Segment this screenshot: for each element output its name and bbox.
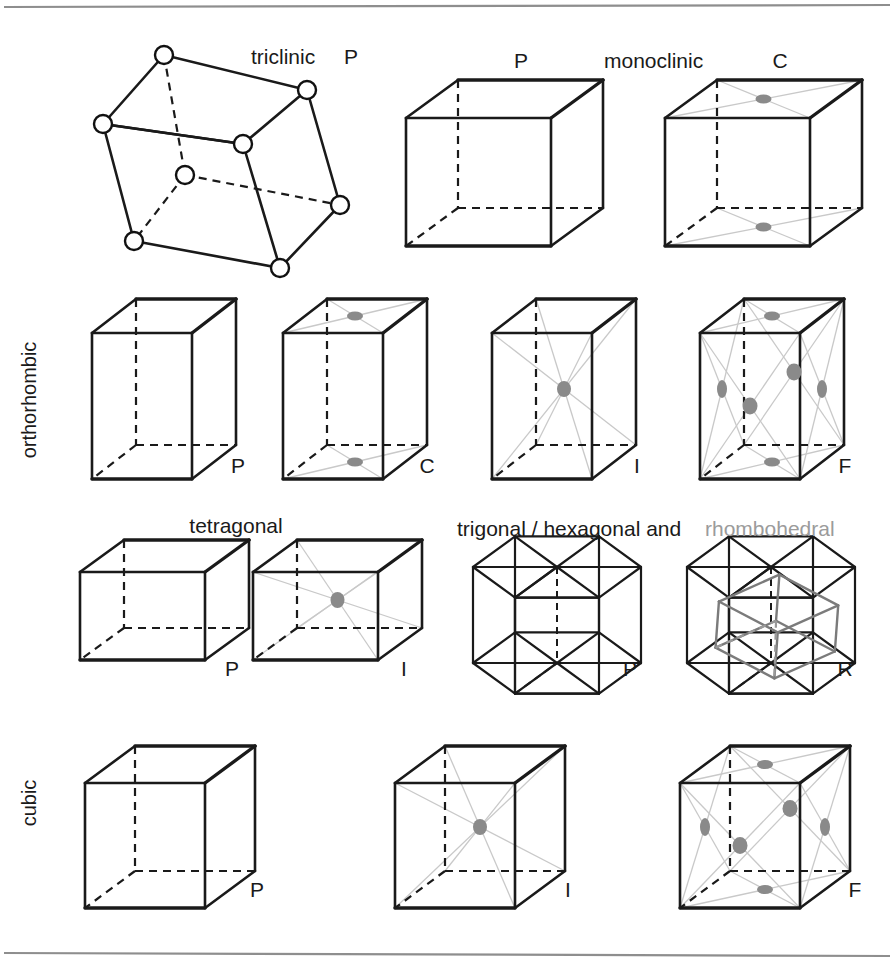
symbol-tetragonal-I: I (401, 657, 407, 680)
lattice-point-bottom-face-centre (757, 885, 773, 894)
label-triclinic: triclinic (251, 45, 315, 68)
symbol-orthorhombic-I: I (634, 454, 640, 477)
label-cubic: cubic (18, 780, 40, 827)
symbol-monoclinic-P: P (514, 49, 528, 72)
symbol-orthorhombic-C: C (419, 454, 434, 477)
lattice-point-bottom-face-centre (756, 223, 772, 232)
bravais-lattices-figure: triclinic P P monoclinic C orthorhombic … (0, 0, 894, 961)
lattice-node-bbr (331, 196, 349, 214)
symbol-triclinic-P: P (344, 45, 358, 68)
lattice-point-left-face-centre (700, 818, 710, 836)
lattice-point-body-centre (331, 592, 345, 608)
symbol-cubic-P: P (250, 878, 264, 901)
lattice-node-fbl (125, 232, 143, 250)
lattice-point-top-face-centre (764, 312, 780, 321)
lattice-point-body-centre (557, 381, 571, 397)
symbol-rhombohedral-R: R (837, 657, 852, 680)
lattice-node-btr (298, 81, 316, 99)
lattice-node-ftl (94, 115, 112, 133)
lattice-point-top-face-centre (756, 95, 772, 104)
lattice-point-front-face-centre (743, 398, 758, 415)
symbol-orthorhombic-F: F (839, 454, 852, 477)
lattice-point-back-face-centre (783, 800, 798, 817)
lattice-point-bottom-face-centre (764, 458, 780, 467)
lattice-point-back-face-centre (787, 364, 802, 381)
symbol-cubic-I: I (565, 878, 571, 901)
lattice-point-top-face-centre (757, 760, 773, 769)
label-rhombohedral: rhombohedral (705, 517, 835, 540)
lattice-node-ftr (234, 135, 252, 153)
lattice-node-fbr (271, 259, 289, 277)
symbol-hexagonal-P: P (623, 657, 637, 680)
label-trigonal-hexagonal: trigonal / hexagonal and (457, 517, 681, 540)
lattice-node-bbl (176, 166, 194, 184)
lattice-node-btl (155, 46, 173, 64)
symbol-tetragonal-P: P (225, 657, 239, 680)
lattice-point-top-face-centre (347, 312, 363, 321)
label-monoclinic: monoclinic (604, 49, 703, 72)
label-tetragonal: tetragonal (189, 514, 282, 537)
label-orthorhombic: orthorhombic (18, 342, 40, 459)
symbol-cubic-F: F (849, 878, 862, 901)
lattice-point-bottom-face-centre (347, 458, 363, 467)
lattice-point-body-centre (473, 819, 487, 835)
symbol-monoclinic-C: C (772, 49, 787, 72)
lattice-point-front-face-centre (733, 837, 748, 854)
lattice-point-left-face-centre (717, 380, 727, 398)
symbol-orthorhombic-P: P (231, 454, 245, 477)
lattice-point-right-face-centre (817, 380, 827, 398)
lattice-point-right-face-centre (820, 818, 830, 836)
